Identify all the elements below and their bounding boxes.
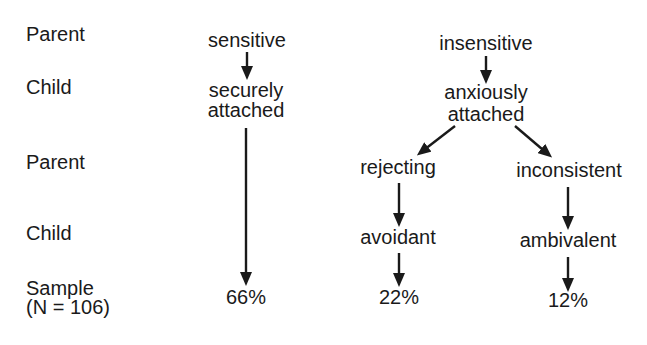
pct-secure: 66% [226, 287, 266, 307]
node-inconsistent: inconsistent [516, 160, 622, 180]
pct-avoidant: 22% [379, 287, 419, 307]
row-label-child: Child [26, 77, 72, 97]
row-label-child: Child [26, 223, 72, 243]
arrow-anxious-to-inconsistent [515, 126, 549, 155]
node-securely: securely [209, 80, 283, 100]
node-rejecting: rejecting [360, 157, 436, 177]
row-label-sample: Sample [26, 278, 94, 298]
pct-ambivalent: 12% [548, 290, 588, 310]
arrow-anxious-to-rejecting [420, 126, 455, 153]
node-anxiously: anxiously [444, 82, 527, 102]
row-label-parent: Parent [26, 24, 85, 44]
node-anxiously-attached: attached [448, 104, 525, 124]
node-ambivalent: ambivalent [520, 230, 617, 250]
node-sensitive: sensitive [208, 30, 286, 50]
row-label-sample-size: (N = 106) [26, 297, 110, 317]
node-insensitive: insensitive [439, 33, 532, 53]
row-label-parent: Parent [26, 152, 85, 172]
node-securely-attached: attached [208, 100, 285, 120]
node-avoidant: avoidant [360, 227, 436, 247]
